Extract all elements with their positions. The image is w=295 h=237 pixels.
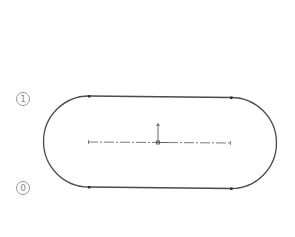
point-label-1: 1 xyxy=(16,92,30,106)
endpoint-bottom-left[interactable] xyxy=(88,186,91,189)
endpoint-top-right[interactable] xyxy=(230,97,233,100)
right-arc[interactable] xyxy=(231,98,276,189)
bottom-edge-line[interactable] xyxy=(89,187,231,189)
sketch-canvas xyxy=(0,0,295,237)
label-text: 1 xyxy=(16,92,30,106)
endpoint-bottom-right[interactable] xyxy=(230,188,233,191)
left-arc[interactable] xyxy=(44,96,89,187)
top-edge-line[interactable] xyxy=(89,96,231,98)
origin-icon xyxy=(157,124,169,145)
point-label-0: 0 xyxy=(16,181,30,195)
endpoint-top-left[interactable] xyxy=(88,95,91,98)
label-text: 0 xyxy=(16,181,30,195)
